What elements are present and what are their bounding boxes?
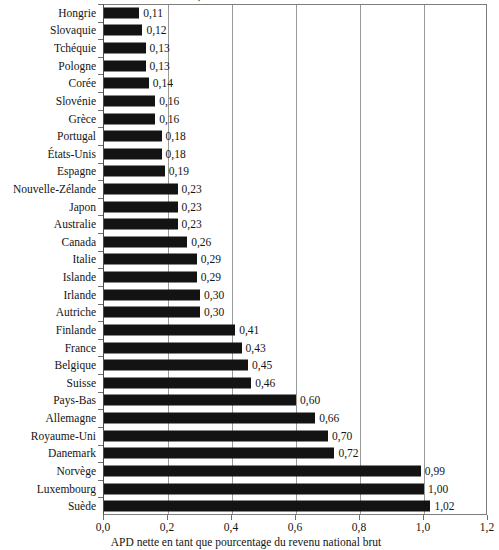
y-axis-tick [98, 497, 103, 498]
y-axis-tick [98, 480, 103, 481]
bar-row: Slovaquie0,12 [0, 22, 492, 40]
bar-row: Nouvelle-Zélande0,23 [0, 180, 492, 198]
bar-row: Espagne0,19 [0, 163, 492, 181]
bar-row: Suisse0,46 [0, 374, 492, 392]
bar-value-label: 0,30 [204, 306, 224, 318]
y-axis-tick [98, 127, 103, 128]
y-axis-tick [98, 462, 103, 463]
bar-row: Luxembourg1,00 [0, 480, 492, 498]
bar [104, 430, 328, 441]
bar-rows: Hongrie0,11Slovaquie0,12Tchéquie0,13Polo… [0, 4, 492, 515]
bar-value-label: 1,02 [434, 500, 454, 512]
bar-value-label: 0,45 [252, 359, 272, 371]
x-axis-tick-label: 1,2 [457, 521, 499, 533]
y-axis-tick [98, 74, 103, 75]
bar-row: Royaume-Uni0,70 [0, 427, 492, 445]
bar-row: Belgique0,45 [0, 356, 492, 374]
bar-row: Italie0,29 [0, 251, 492, 269]
chart-title: Générosité relative des donneurs du CAD,… [8, 0, 428, 3]
category-label: Australie [0, 218, 96, 230]
x-axis-tick [103, 515, 104, 520]
bar [104, 184, 178, 195]
bar-value-label: 0,14 [153, 77, 173, 89]
bar-value-label: 0,12 [146, 24, 166, 36]
category-label: Hongrie [0, 7, 96, 19]
bar-value-label: 0,30 [204, 289, 224, 301]
x-axis-tick [231, 515, 232, 520]
y-axis-tick [98, 427, 103, 428]
category-label: Islande [0, 271, 96, 283]
category-label: Pays-Bas [0, 394, 96, 406]
category-label: Espagne [0, 165, 96, 177]
bar-row: Tchéquie0,13 [0, 39, 492, 57]
bar-row: Pays-Bas0,60 [0, 392, 492, 410]
category-label: Allemagne [0, 412, 96, 424]
bar [104, 307, 200, 318]
bar-value-label: 1,00 [428, 483, 448, 495]
bar-value-label: 0,16 [159, 113, 179, 125]
bar-value-label: 0,41 [239, 324, 259, 336]
y-axis-tick [98, 163, 103, 164]
bar-value-label: 0,29 [201, 253, 221, 265]
y-axis-tick [98, 392, 103, 393]
bar-value-label: 0,13 [150, 60, 170, 72]
bar-value-label: 0,43 [246, 342, 266, 354]
bar-row: Norvège0,99 [0, 462, 492, 480]
y-axis-tick [98, 180, 103, 181]
bar [104, 360, 248, 371]
bar [104, 501, 430, 512]
bar-value-label: 0,66 [319, 412, 339, 424]
bar [104, 289, 200, 300]
bar-value-label: 0,72 [338, 447, 358, 459]
bar [104, 448, 334, 459]
x-axis-tick-label: 1,0 [393, 521, 453, 533]
bar [104, 95, 155, 106]
category-label: Belgique [0, 359, 96, 371]
bar-row: Australie0,23 [0, 215, 492, 233]
category-label: Suisse [0, 377, 96, 389]
bar-value-label: 0,23 [182, 183, 202, 195]
bar-row: Portugal0,18 [0, 127, 492, 145]
y-axis-tick [98, 251, 103, 252]
category-label: États-Unis [0, 148, 96, 160]
category-label: Danemark [0, 447, 96, 459]
category-label: Corée [0, 77, 96, 89]
x-axis-tick-label: 0,8 [329, 521, 389, 533]
y-axis-tick [98, 374, 103, 375]
category-label: Luxembourg [0, 483, 96, 495]
bar-row: Grèce0,16 [0, 110, 492, 128]
x-axis-tick-label: 0,6 [265, 521, 325, 533]
y-axis-tick [98, 339, 103, 340]
y-axis-tick [98, 445, 103, 446]
category-label: Slovénie [0, 95, 96, 107]
bar-row: Allemagne0,66 [0, 409, 492, 427]
category-label: Autriche [0, 306, 96, 318]
y-axis-tick [98, 286, 103, 287]
bar-value-label: 0,29 [201, 271, 221, 283]
bar-row: Pologne0,13 [0, 57, 492, 75]
y-axis-tick [98, 110, 103, 111]
category-label: Irlande [0, 289, 96, 301]
bar-value-label: 0,46 [255, 377, 275, 389]
x-axis-tick-label: 0,0 [73, 521, 133, 533]
bar-row: Hongrie0,11 [0, 4, 492, 22]
bar [104, 465, 421, 476]
x-axis-tick [359, 515, 360, 520]
category-label: Slovaquie [0, 24, 96, 36]
category-label: Tchéquie [0, 42, 96, 54]
bar [104, 131, 162, 142]
bar [104, 78, 149, 89]
y-axis-tick [98, 57, 103, 58]
y-axis-tick [98, 321, 103, 322]
bar-value-label: 0,18 [166, 148, 186, 160]
bar-value-label: 0,26 [191, 236, 211, 248]
x-axis-tick-label: 0,4 [201, 521, 261, 533]
y-axis-tick [98, 145, 103, 146]
y-axis-tick [98, 356, 103, 357]
bar [104, 413, 315, 424]
bar-row: Danemark0,72 [0, 445, 492, 463]
category-label: Canada [0, 236, 96, 248]
x-axis-title: APD nette en tant que pourcentage du rev… [0, 536, 492, 548]
y-axis-tick [98, 22, 103, 23]
bar [104, 43, 146, 54]
